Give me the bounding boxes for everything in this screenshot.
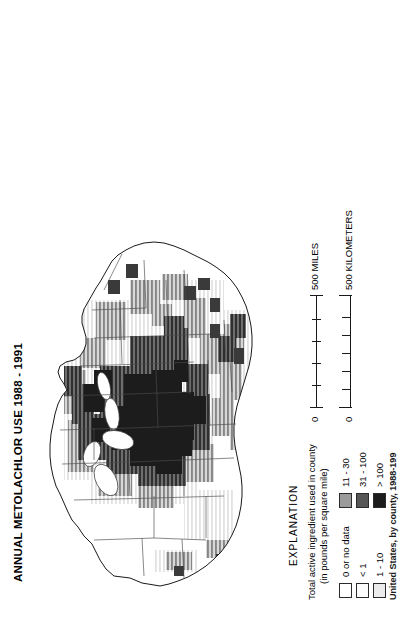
- scale-km-label: 500 KILOMETERS: [343, 210, 354, 290]
- legend-item-label: 0 or no data: [340, 526, 351, 577]
- legend-item-1-to-10[interactable]: 1 - 10: [372, 526, 386, 598]
- legend-column-low: 0 or no data < 1 1 - 10: [338, 526, 386, 598]
- figure-stage: ANNUAL METOLACHLOR USE 1988 - 1991: [0, 0, 402, 618]
- legend-item-less-than-1[interactable]: < 1: [355, 526, 369, 598]
- legend-subtitle-line2: (in pounds per square mile): [318, 468, 329, 584]
- map-legend: EXPLANATION Total active ingredient used…: [288, 424, 392, 600]
- legend-swatch-icon: [373, 493, 386, 508]
- legend-item-over-100[interactable]: > 100: [372, 452, 386, 508]
- scale-tick: [339, 407, 352, 408]
- scale-tick: [312, 341, 321, 342]
- scale-tick: [342, 371, 351, 372]
- scale-tick: [342, 389, 351, 390]
- scale-bars: 0 500 MILES 0 500 KILOMETERS: [300, 242, 384, 422]
- legend-subtitle-line1: Total active ingredient used in county: [306, 444, 317, 600]
- legend-column-high: 11 - 30 31 - 100 > 100: [338, 452, 386, 508]
- scale-tick: [310, 407, 323, 408]
- legend-item-11-to-30[interactable]: 11 - 30: [338, 452, 352, 508]
- scale-tick: [310, 295, 323, 296]
- scale-miles-track: [316, 296, 317, 408]
- legend-item-0-or-no-data[interactable]: 0 or no data: [338, 526, 352, 598]
- legend-item-label: > 100: [374, 463, 385, 487]
- scale-tick: [342, 317, 351, 318]
- scale-km-zero: 0: [343, 417, 354, 422]
- figure-caption: United States, by county, 1988-199: [388, 453, 398, 600]
- scale-tick: [342, 353, 351, 354]
- choropleth-map[interactable]: [34, 220, 284, 600]
- legend-swatch-icon: [356, 493, 369, 508]
- scale-bar-kilometers: 0 500 KILOMETERS: [334, 242, 368, 422]
- scale-tick: [339, 295, 352, 296]
- legend-heading: EXPLANATION: [288, 485, 299, 566]
- scale-tick: [312, 385, 321, 386]
- legend-item-label: 11 - 30: [340, 458, 351, 487]
- map-svg: [34, 220, 284, 600]
- scale-miles-label: 500 MILES: [309, 243, 320, 290]
- legend-item-label: 31 - 100: [357, 452, 368, 487]
- legend-item-31-to-100[interactable]: 31 - 100: [355, 452, 369, 508]
- scale-bar-miles: 0 500 MILES: [300, 242, 334, 422]
- scale-tick: [312, 363, 321, 364]
- page-title: ANNUAL METOLACHLOR USE 1988 - 1991: [12, 343, 24, 582]
- scale-miles-zero: 0: [309, 417, 320, 422]
- legend-swatch-icon: [373, 583, 386, 598]
- legend-item-label: < 1: [357, 564, 368, 577]
- scale-km-track: [350, 296, 351, 408]
- legend-item-label: 1 - 10: [374, 553, 385, 577]
- scale-tick: [312, 319, 321, 320]
- legend-swatch-icon: [356, 583, 369, 598]
- map-land-fill: [34, 220, 284, 600]
- scale-tick: [342, 335, 351, 336]
- legend-swatch-icon: [339, 493, 352, 508]
- legend-swatch-icon: [339, 583, 352, 598]
